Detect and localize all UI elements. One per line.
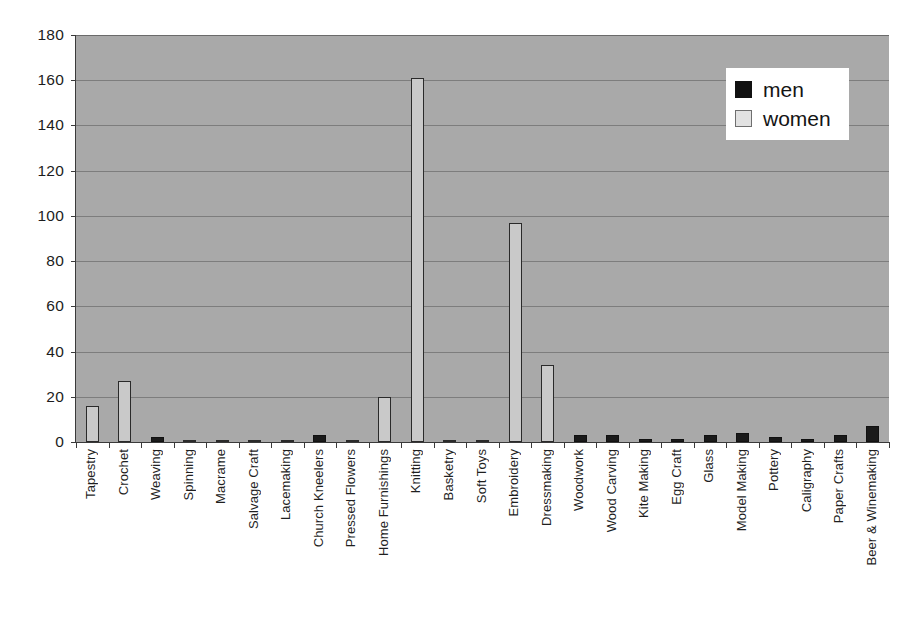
bar-women[interactable] bbox=[541, 365, 554, 442]
x-tick-mark bbox=[466, 442, 467, 448]
gridline bbox=[76, 261, 889, 262]
legend: men women bbox=[726, 68, 849, 140]
legend-item-women[interactable]: women bbox=[735, 104, 831, 133]
legend-label-women: women bbox=[763, 108, 831, 129]
x-tick-label: Glass bbox=[702, 449, 715, 483]
bar-women[interactable] bbox=[86, 406, 99, 442]
y-tick-mark bbox=[71, 216, 76, 217]
x-tick-mark bbox=[304, 442, 305, 448]
x-tick-mark bbox=[759, 442, 760, 448]
x-tick-label: Kite Making bbox=[637, 449, 650, 518]
gridline bbox=[76, 397, 889, 398]
y-tick-label: 20 bbox=[46, 388, 64, 406]
x-tick-mark bbox=[694, 442, 695, 448]
bar-men[interactable] bbox=[866, 426, 879, 442]
bar-men[interactable] bbox=[769, 437, 782, 442]
y-tick-mark bbox=[71, 306, 76, 307]
x-tick-label: Wood Carving bbox=[605, 449, 618, 532]
y-tick-label: 60 bbox=[46, 297, 64, 315]
bar-women[interactable] bbox=[183, 440, 196, 442]
x-tick-mark bbox=[174, 442, 175, 448]
bar-men[interactable] bbox=[704, 435, 717, 442]
x-tick-mark bbox=[434, 442, 435, 448]
bar-men[interactable] bbox=[671, 439, 684, 442]
bar-women[interactable] bbox=[118, 381, 131, 442]
bar-women[interactable] bbox=[248, 440, 261, 442]
x-tick-label: Embroidery bbox=[507, 449, 520, 516]
gridline bbox=[76, 171, 889, 172]
bar-men[interactable] bbox=[313, 435, 326, 442]
y-tick-mark bbox=[71, 35, 76, 36]
x-tick-mark bbox=[856, 442, 857, 448]
y-tick-label: 40 bbox=[46, 343, 64, 361]
x-tick-label: Macrame bbox=[214, 449, 227, 504]
bar-women[interactable] bbox=[281, 440, 294, 442]
bar-women[interactable] bbox=[443, 440, 456, 442]
y-tick-mark bbox=[71, 125, 76, 126]
bar-men[interactable] bbox=[834, 435, 847, 442]
y-tick-label: 180 bbox=[38, 26, 64, 44]
bar-women[interactable] bbox=[378, 397, 391, 442]
y-tick-mark bbox=[71, 397, 76, 398]
bar-men[interactable] bbox=[606, 435, 619, 442]
x-tick-mark bbox=[109, 442, 110, 448]
bar-men[interactable] bbox=[736, 433, 749, 442]
y-tick-label: 100 bbox=[38, 207, 64, 225]
gridline bbox=[76, 35, 889, 36]
x-tick-label: Soft Toys bbox=[475, 449, 488, 503]
x-tick-label: Dressmaking bbox=[540, 449, 553, 526]
x-tick-label: Tapestry bbox=[84, 449, 97, 499]
bar-chart: 020406080100120140160180 TapestryCrochet… bbox=[0, 0, 906, 621]
x-tick-mark bbox=[141, 442, 142, 448]
gridline bbox=[76, 306, 889, 307]
x-tick-mark bbox=[271, 442, 272, 448]
y-tick-mark bbox=[71, 261, 76, 262]
legend-item-men[interactable]: men bbox=[735, 75, 831, 104]
x-tick-label: Pressed Flowers bbox=[344, 449, 357, 547]
x-tick-mark bbox=[791, 442, 792, 448]
y-tick-label: 80 bbox=[46, 252, 64, 270]
x-tick-mark bbox=[824, 442, 825, 448]
bar-men[interactable] bbox=[639, 439, 652, 442]
x-tick-mark bbox=[531, 442, 532, 448]
bar-women[interactable] bbox=[476, 440, 489, 442]
x-tick-label: Church Kneelers bbox=[312, 449, 325, 547]
legend-swatch-men-icon bbox=[735, 81, 752, 98]
x-tick-mark bbox=[369, 442, 370, 448]
x-tick-label: Home Furnishings bbox=[377, 449, 390, 556]
x-tick-mark bbox=[336, 442, 337, 448]
x-tick-mark bbox=[596, 442, 597, 448]
y-tick-label: 160 bbox=[38, 71, 64, 89]
x-tick-mark bbox=[76, 442, 77, 448]
x-tick-label: Basketry bbox=[442, 449, 455, 500]
x-tick-label: Weaving bbox=[149, 449, 162, 500]
x-tick-label: Lacemaking bbox=[279, 449, 292, 520]
gridline bbox=[76, 352, 889, 353]
x-tick-label: Pottery bbox=[767, 449, 780, 491]
x-tick-mark bbox=[661, 442, 662, 448]
bar-women[interactable] bbox=[509, 223, 522, 442]
y-tick-label: 140 bbox=[38, 116, 64, 134]
bar-men[interactable] bbox=[801, 439, 814, 442]
bar-women[interactable] bbox=[346, 440, 359, 442]
bar-men[interactable] bbox=[151, 437, 164, 442]
y-tick-mark bbox=[71, 171, 76, 172]
y-tick-label: 120 bbox=[38, 162, 64, 180]
x-tick-mark bbox=[726, 442, 727, 448]
y-tick-mark bbox=[71, 352, 76, 353]
x-tick-label: Egg Craft bbox=[670, 449, 683, 505]
bar-women[interactable] bbox=[216, 440, 229, 442]
x-tick-mark bbox=[499, 442, 500, 448]
x-tick-label: Spinning bbox=[182, 449, 195, 500]
legend-swatch-women-icon bbox=[735, 110, 752, 127]
x-axis: TapestryCrochetWeavingSpinningMacrameSal… bbox=[75, 449, 888, 621]
x-tick-mark bbox=[889, 442, 890, 448]
x-tick-mark bbox=[564, 442, 565, 448]
x-tick-label: Model Making bbox=[735, 449, 748, 531]
legend-label-men: men bbox=[763, 79, 804, 100]
x-tick-mark bbox=[239, 442, 240, 448]
bar-women[interactable] bbox=[411, 78, 424, 442]
x-tick-label: Knitting bbox=[409, 449, 422, 493]
y-axis: 020406080100120140160180 bbox=[0, 0, 68, 621]
bar-men[interactable] bbox=[574, 435, 587, 442]
